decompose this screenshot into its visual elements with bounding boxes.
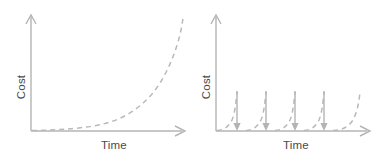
left-x-axis xyxy=(31,126,185,136)
cost-vs-time-figure: Cost Time xyxy=(0,0,390,161)
right-x-axis-label: Time xyxy=(283,139,309,151)
left-panel: Cost Time xyxy=(15,15,185,151)
sawtooth-segment xyxy=(275,92,295,131)
right-y-axis-label: Cost xyxy=(200,74,212,99)
left-y-axis-label: Cost xyxy=(15,74,27,99)
reset-arrows xyxy=(233,91,327,131)
left-cost-curve xyxy=(32,18,183,131)
sawtooth-segment xyxy=(246,92,266,131)
sawtooth-segment xyxy=(333,92,360,131)
right-panel: Cost Time xyxy=(200,15,370,151)
sawtooth-segment xyxy=(217,92,237,131)
figure-canvas: Cost Time xyxy=(0,0,390,161)
left-x-axis-label: Time xyxy=(101,139,127,151)
sawtooth-segment xyxy=(304,92,324,131)
right-y-axis xyxy=(211,15,221,131)
left-y-axis xyxy=(26,15,36,131)
right-x-axis xyxy=(216,126,370,136)
